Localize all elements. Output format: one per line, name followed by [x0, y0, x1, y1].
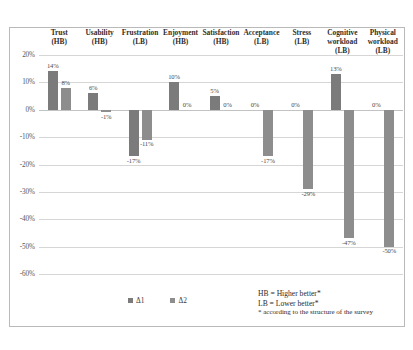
category-direction: (HB)	[201, 37, 241, 46]
bar-value-label: 13%	[323, 65, 349, 72]
category-direction: (HB)	[39, 37, 79, 46]
category-header: Satisfaction(HB)	[201, 28, 241, 46]
bar-value-label: -29%	[295, 190, 321, 197]
bar	[129, 110, 139, 157]
bar-value-label: -17%	[255, 157, 281, 164]
legend-label-delta1: Δ1	[136, 296, 144, 305]
bar	[331, 74, 341, 110]
bar-value-label: 14%	[40, 62, 66, 69]
category-name: Usability	[85, 28, 113, 37]
bar	[344, 110, 354, 239]
bar-value-label: 0%	[174, 101, 200, 108]
category-direction: (LB)	[241, 37, 281, 46]
bar-value-label: 5%	[202, 87, 228, 94]
note-lower-better: LB = Lower better*	[258, 299, 373, 309]
y-axis-tick: -30%	[1, 188, 35, 196]
category-name: Enjoyment	[163, 28, 198, 37]
y-axis-tick: -20%	[1, 161, 35, 169]
chart-notes: HB = Higher better* LB = Lower better* *…	[258, 289, 373, 318]
chart-legend: Δ1 Δ2	[128, 296, 187, 305]
y-axis-tick: 20%	[1, 51, 35, 59]
bar-value-label: -1%	[93, 113, 119, 120]
category-name: Physical workload	[368, 28, 398, 46]
category-header: Trust(HB)	[39, 28, 79, 46]
plot-area: 20%10%0%-10%-20%-30%-40%-50%-60%14%8%6%-…	[39, 55, 403, 274]
category-header: Cognitive workload(LB)	[322, 28, 362, 56]
category-headers: Trust(HB)Usability(HB)Frustration(LB)Enj…	[39, 28, 403, 55]
y-axis-tick: -60%	[1, 270, 35, 278]
category-header: Acceptance(LB)	[241, 28, 281, 46]
y-axis-tick: -40%	[1, 215, 35, 223]
gridline	[39, 274, 403, 275]
legend-item-delta1: Δ1	[128, 296, 144, 305]
y-axis-tick: -50%	[1, 243, 35, 251]
bar-value-label: -47%	[336, 239, 362, 246]
category-header: Frustration(LB)	[120, 28, 160, 46]
bar	[263, 110, 273, 157]
gridline	[39, 55, 403, 56]
bar-value-label: 0%	[242, 101, 268, 108]
bar	[61, 88, 71, 110]
category-header: Usability(HB)	[79, 28, 119, 46]
legend-swatch-delta2	[170, 298, 175, 303]
legend-swatch-delta1	[128, 298, 133, 303]
bar-value-label: 8%	[53, 79, 79, 86]
y-axis-tick: -10%	[1, 133, 35, 141]
chart-container: Trust(HB)Usability(HB)Frustration(LB)Enj…	[0, 0, 413, 350]
category-direction: (HB)	[79, 37, 119, 46]
bar-value-label: 0%	[215, 101, 241, 108]
bar	[48, 71, 58, 109]
gridline	[39, 82, 403, 83]
legend-item-delta2: Δ2	[170, 296, 186, 305]
category-direction: (HB)	[160, 37, 200, 46]
category-name: Trust	[51, 28, 68, 37]
bar-value-label: 0%	[282, 101, 308, 108]
legend-label-delta2: Δ2	[178, 296, 186, 305]
bar	[88, 93, 98, 109]
gridline	[39, 247, 403, 248]
category-header: Stress(LB)	[282, 28, 322, 46]
category-name: Acceptance	[243, 28, 279, 37]
bar-value-label: -50%	[376, 247, 402, 254]
category-header: Enjoyment(HB)	[160, 28, 200, 46]
category-direction: (LB)	[282, 37, 322, 46]
category-header: Physical workload(LB)	[363, 28, 403, 56]
bar-value-label: -17%	[121, 157, 147, 164]
category-name: Satisfaction	[203, 28, 240, 37]
bar-value-label: 6%	[80, 84, 106, 91]
bar-value-label: 10%	[161, 73, 187, 80]
category-name: Frustration	[122, 28, 159, 37]
category-direction: (LB)	[120, 37, 160, 46]
bar-value-label: -11%	[134, 140, 160, 147]
category-name: Cognitive workload	[327, 28, 357, 46]
category-name: Stress	[292, 28, 311, 37]
note-higher-better: HB = Higher better*	[258, 289, 373, 299]
note-survey-footnote: * according to the structure of the surv…	[258, 308, 373, 318]
y-axis-tick: 0%	[1, 106, 35, 114]
bar-value-label: 0%	[363, 101, 389, 108]
bar	[384, 110, 394, 247]
bar	[303, 110, 313, 189]
bar	[142, 110, 152, 140]
y-axis-tick: 10%	[1, 78, 35, 86]
